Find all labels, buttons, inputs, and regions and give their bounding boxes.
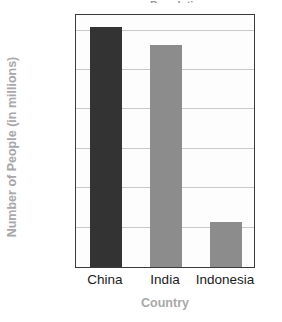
- x-axis-title: Country: [75, 296, 255, 310]
- y-axis-title: Number of People (in millions): [5, 22, 19, 272]
- cropped-chart-title: Population: [150, 0, 210, 3]
- bar-chart-figure: Population Number of People (in millions…: [0, 0, 282, 322]
- x-tick-label-indonesia: Indonesia: [185, 272, 265, 287]
- bar-india: [150, 45, 182, 267]
- plot-area: [75, 14, 255, 268]
- bar-china: [90, 27, 122, 267]
- bar-indonesia: [210, 222, 242, 267]
